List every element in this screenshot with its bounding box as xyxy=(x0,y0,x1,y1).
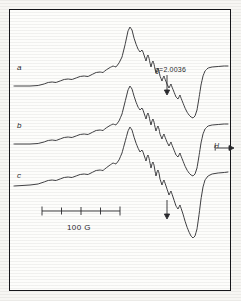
g-marker-arrow-down xyxy=(164,75,169,95)
g-value-label: g=2.0036 xyxy=(155,66,186,73)
spectrum-trace-b xyxy=(14,86,228,176)
figure-container: a b c g=2.0036 100 G H xyxy=(0,0,241,301)
scale-bar xyxy=(42,207,120,216)
scale-bar-label: 100 G xyxy=(67,224,91,232)
spectrum-trace-c xyxy=(14,127,228,238)
esr-spectrum-plot xyxy=(0,0,241,301)
spectrum-trace-a xyxy=(14,27,228,118)
field-axis-label: H xyxy=(214,142,219,149)
lower-marker-arrow-down xyxy=(164,200,169,219)
trace-label-a: a xyxy=(17,64,21,72)
trace-label-b: b xyxy=(17,122,21,130)
trace-label-c: c xyxy=(17,172,21,180)
